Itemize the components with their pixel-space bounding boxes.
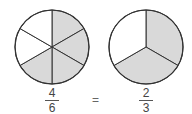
pie-six-sixths [15,10,89,84]
denominator: 6 [42,102,62,114]
fraction-left: 4 6 [42,87,62,114]
numerator: 4 [42,87,62,99]
fraction-right: 2 3 [136,87,156,114]
equals-sign: = [92,93,99,107]
pie-three-thirds [109,10,183,84]
numerator: 2 [136,87,156,99]
denominator: 3 [136,102,156,114]
